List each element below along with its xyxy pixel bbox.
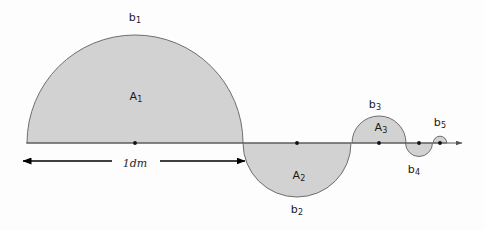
area-label-a1: A1 bbox=[130, 90, 143, 104]
center-dot-4 bbox=[417, 141, 421, 145]
diagram-canvas bbox=[0, 0, 484, 230]
semicircle-a4 bbox=[406, 143, 433, 157]
center-dot-1 bbox=[133, 141, 137, 145]
arc-label-b2: b2 bbox=[291, 203, 303, 217]
arc-label-b3: b3 bbox=[369, 98, 381, 112]
area-label-a2: A2 bbox=[293, 169, 306, 183]
semicircle-diagram: b1 A1 b2 A2 b3 A3 b4 b5 1dm bbox=[0, 0, 484, 230]
arc-label-b5: b5 bbox=[434, 116, 446, 130]
center-dot-3 bbox=[377, 141, 381, 145]
center-dot-2 bbox=[295, 141, 299, 145]
area-label-a3: A3 bbox=[375, 121, 388, 135]
dimension-label-1dm: 1dm bbox=[123, 157, 147, 170]
arc-label-b1: b1 bbox=[129, 11, 141, 25]
semicircle-a1 bbox=[27, 35, 243, 143]
center-dot-5 bbox=[438, 141, 442, 145]
arc-label-b4: b4 bbox=[408, 163, 420, 177]
semicircle-shapes bbox=[27, 35, 447, 197]
